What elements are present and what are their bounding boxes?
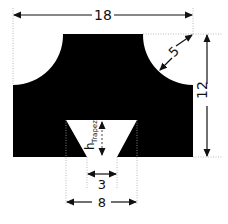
dimension-trapezoid-bottom-width: 3 — [88, 174, 116, 192]
dimension-total-height: 12 — [194, 35, 210, 156]
dimension-trapezoid-height: h Trapez — [83, 120, 102, 155]
dimension-total-width: 18 — [14, 7, 192, 23]
dimension-trapezoid-top-width: 8 — [67, 195, 136, 210]
trapezoid-bottom-width-label: 3 — [98, 177, 106, 192]
total-height-label: 12 — [194, 81, 210, 99]
cross-section-diagram: 18 12 5 h Trapez 3 8 — [0, 0, 228, 224]
cross-section-shape — [13, 34, 193, 157]
trapezoid-height-subscript: Trapez — [91, 120, 99, 144]
radius-label: 5 — [165, 43, 181, 59]
total-width-label: 18 — [94, 7, 112, 23]
trapezoid-top-width-label: 8 — [98, 195, 106, 210]
dimension-radius: 5 — [160, 35, 192, 70]
